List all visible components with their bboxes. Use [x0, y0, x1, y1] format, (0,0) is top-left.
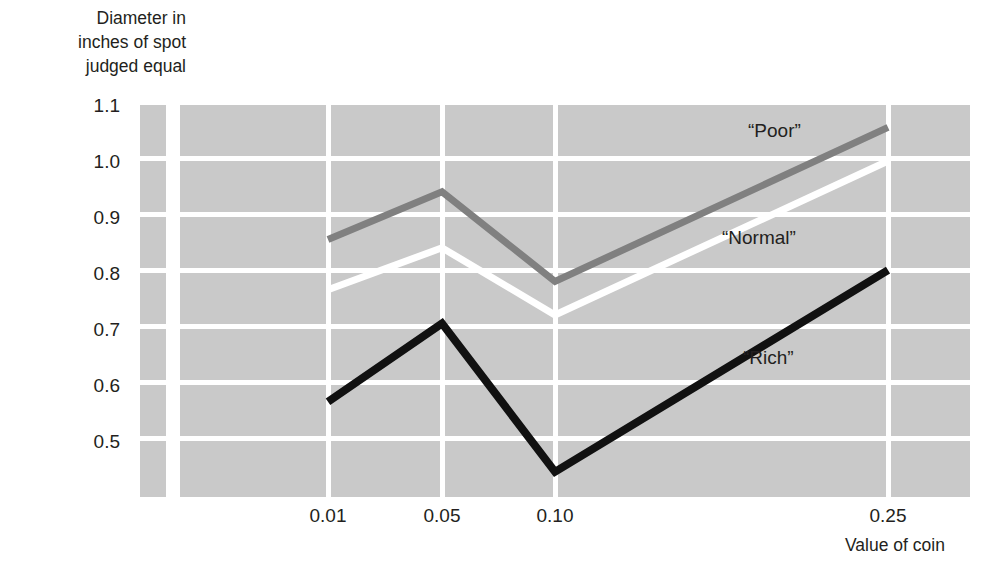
y-tick-label-4: 0.8: [0, 264, 120, 283]
x-axis-caption: Value of coin: [845, 535, 945, 555]
series-plot: [180, 105, 970, 497]
axis-band-gridline: [140, 268, 166, 273]
y-axis-caption: Diameter in inches of spot judged equal: [0, 6, 186, 78]
series-label-rich: “Rich”: [743, 348, 794, 367]
x-tick-label-1: 0.01: [288, 506, 368, 525]
axis-band-gridline: [140, 212, 166, 217]
axis-band-gridline: [140, 156, 166, 161]
plot-area: “Poor” “Normal” “Rich”: [180, 105, 970, 497]
x-tick-label-3: 0.10: [515, 506, 595, 525]
x-tick-label-4: 0.25: [848, 506, 928, 525]
series-label-poor: “Poor”: [748, 121, 801, 140]
y-axis-band: [140, 105, 166, 497]
series-line-normal: [328, 161, 888, 315]
y-tick-label-5: 0.7: [0, 320, 120, 339]
y-tick-label-1: 1.1: [0, 96, 120, 115]
axis-band-gridline: [140, 324, 166, 329]
axis-band-gridline: [140, 380, 166, 385]
axis-band-gridline: [140, 436, 166, 441]
y-tick-label-7: 0.5: [0, 432, 120, 451]
y-tick-label-2: 1.0: [0, 152, 120, 171]
x-tick-label-2: 0.05: [402, 506, 482, 525]
series-label-normal: “Normal”: [722, 228, 796, 247]
y-tick-label-3: 0.9: [0, 208, 120, 227]
series-line-rich: [328, 270, 888, 472]
y-tick-label-6: 0.6: [0, 376, 120, 395]
